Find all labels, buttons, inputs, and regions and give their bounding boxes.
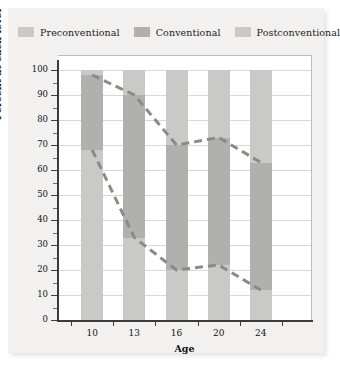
- trend-lines: [58, 70, 311, 320]
- x-tick-label: 13: [129, 328, 140, 338]
- x-tick-label: 10: [86, 328, 97, 338]
- y-tick-label: 100: [0, 64, 48, 74]
- x-tick-label: 20: [213, 328, 224, 338]
- y-tick-minor: [53, 208, 57, 209]
- y-tick: [51, 270, 57, 271]
- legend-label-preconventional: Preconventional: [40, 27, 120, 38]
- legend-label-conventional: Conventional: [156, 27, 221, 38]
- y-tick-minor: [53, 308, 57, 309]
- y-tick: [51, 220, 57, 221]
- y-tick-minor: [53, 233, 57, 234]
- y-tick-minor: [53, 133, 57, 134]
- x-tick: [198, 321, 199, 326]
- y-tick-label: 0: [0, 314, 48, 324]
- y-tick: [51, 245, 57, 246]
- legend-label-postconventional: Postconventional: [257, 27, 340, 38]
- y-tick: [51, 145, 57, 146]
- y-tick-minor: [53, 158, 57, 159]
- y-tick: [51, 120, 57, 121]
- y-tick-minor: [53, 83, 57, 84]
- y-axis-line: [57, 60, 59, 321]
- x-tick: [113, 321, 114, 326]
- x-tick: [71, 321, 72, 326]
- legend-swatch-preconventional: [18, 27, 34, 37]
- y-tick-label: 90: [0, 89, 48, 99]
- trend-line: [92, 150, 261, 290]
- legend-item-preconventional: Preconventional: [18, 27, 120, 38]
- chart-legend: Preconventional Conventional Postconvent…: [18, 22, 318, 42]
- y-tick-label: 80: [0, 114, 48, 124]
- x-axis-title: Age: [58, 343, 311, 354]
- y-tick-label: 10: [0, 289, 48, 299]
- chart-figure: Preconventional Conventional Postconvent…: [0, 0, 340, 369]
- y-tick-minor: [53, 108, 57, 109]
- trend-line: [92, 75, 261, 163]
- y-tick-minor: [53, 183, 57, 184]
- y-tick: [51, 170, 57, 171]
- x-tick-label: 16: [171, 328, 182, 338]
- y-tick-label: 20: [0, 264, 48, 274]
- x-tick-label: 24: [255, 328, 266, 338]
- y-tick-minor: [53, 258, 57, 259]
- x-tick: [155, 321, 156, 326]
- y-tick: [51, 320, 57, 321]
- legend-item-conventional: Conventional: [134, 27, 221, 38]
- legend-swatch-postconventional: [235, 27, 251, 37]
- y-tick: [51, 95, 57, 96]
- x-tick: [240, 321, 241, 326]
- legend-swatch-conventional: [134, 27, 150, 37]
- y-tick: [51, 295, 57, 296]
- y-tick: [51, 70, 57, 71]
- y-tick-label: 60: [0, 164, 48, 174]
- x-tick: [282, 321, 283, 326]
- y-axis-title: Percent at each level: [0, 9, 3, 120]
- y-tick-label: 70: [0, 139, 48, 149]
- x-axis-line: [57, 320, 313, 322]
- plot-area: [58, 70, 311, 320]
- y-tick-label: 30: [0, 239, 48, 249]
- legend-item-postconventional: Postconventional: [235, 27, 340, 38]
- y-tick: [51, 195, 57, 196]
- y-tick-label: 40: [0, 214, 48, 224]
- y-tick-label: 50: [0, 189, 48, 199]
- y-tick-minor: [53, 283, 57, 284]
